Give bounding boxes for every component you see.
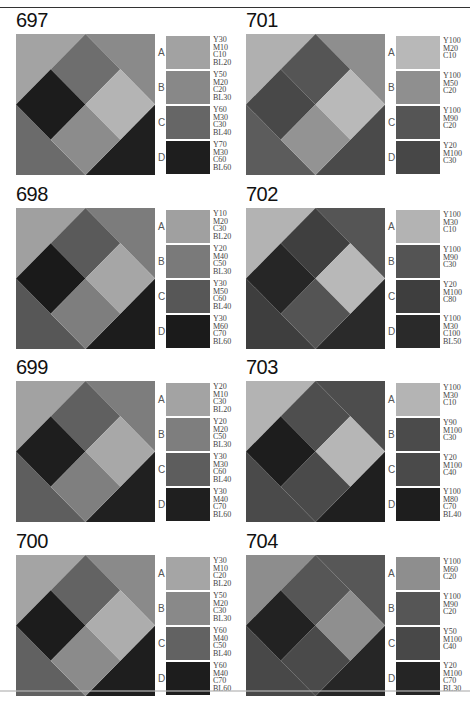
color-swatch <box>396 557 440 590</box>
cmyk-spec: Y20 M20 C50 BL30 <box>213 418 231 448</box>
swatch-letter-b: B <box>388 256 395 267</box>
diamond-pattern-square <box>246 381 385 522</box>
color-panel-699: 699 AY20 M10 C30 BL20BY20 M20 C50 BL30CY… <box>16 357 251 531</box>
swatch-letter-d: D <box>158 152 165 163</box>
cmyk-spec: Y50 M20 C30 BL30 <box>213 592 231 622</box>
swatch-letter-c: C <box>158 291 165 302</box>
cmyk-spec: Y20 M40 C50 BL30 <box>213 245 231 275</box>
cmyk-spec: Y100 M50 C20 <box>443 72 461 95</box>
color-swatch <box>396 383 440 416</box>
cmyk-spec: Y20 M100 C40 <box>443 454 462 477</box>
color-swatch <box>166 488 210 521</box>
cmyk-spec: Y100 M80 C70 BL40 <box>443 488 461 518</box>
swatch-letter-b: B <box>158 603 165 614</box>
cmyk-spec: Y30 M10 C20 BL20 <box>213 557 231 587</box>
diamond-pattern-square <box>246 208 385 349</box>
color-swatch <box>166 453 210 486</box>
color-swatch <box>396 592 440 625</box>
cmyk-spec: Y30 M30 C60 BL40 <box>213 453 231 483</box>
color-swatch <box>396 106 440 139</box>
color-panel-702: 702 AY100 M30 C10BY100 M90 C30CY20 M100 … <box>246 184 470 358</box>
color-swatch <box>166 557 210 590</box>
color-swatch <box>396 36 440 69</box>
swatch-letter-d: D <box>158 673 165 684</box>
color-swatch <box>396 488 440 521</box>
swatch-letter-d: D <box>388 499 395 510</box>
color-panel-701: 701 AY100 M20 C10BY100 M50 C20CY100 M90 … <box>246 10 470 184</box>
cmyk-spec: Y60 M40 C70 BL60 <box>213 662 231 692</box>
color-swatch <box>396 210 440 243</box>
panel-number: 699 <box>16 357 48 377</box>
swatch-letter-b: B <box>158 82 165 93</box>
swatch-letter-d: D <box>388 326 395 337</box>
cmyk-spec: Y50 M20 C20 BL30 <box>213 71 231 101</box>
cmyk-spec: Y20 M10 C30 BL20 <box>213 383 231 413</box>
color-swatch <box>166 280 210 313</box>
swatch-letter-b: B <box>158 429 165 440</box>
top-rule <box>0 7 470 8</box>
cmyk-spec: Y50 M100 C40 <box>443 628 462 651</box>
color-swatch <box>166 106 210 139</box>
cmyk-spec: Y100 M90 C20 <box>443 107 461 130</box>
swatch-letter-a: A <box>158 47 165 58</box>
swatch-letter-a: A <box>388 47 395 58</box>
diamond-pattern-square <box>246 34 385 175</box>
cmyk-spec: Y30 M60 C70 BL60 <box>213 315 231 345</box>
swatch-letter-b: B <box>388 603 395 614</box>
cmyk-spec: Y20 M100 C30 <box>443 142 462 165</box>
diamond-pattern-square <box>16 34 155 175</box>
panel-number: 697 <box>16 10 48 30</box>
cmyk-spec: Y100 M90 C30 <box>443 246 461 269</box>
swatch-letter-d: D <box>388 673 395 684</box>
panel-number: 704 <box>246 531 278 551</box>
cmyk-spec: Y10 M20 C30 BL20 <box>213 210 231 240</box>
swatch-letter-c: C <box>388 291 395 302</box>
color-swatch <box>396 71 440 104</box>
swatch-letter-d: D <box>158 326 165 337</box>
cmyk-spec: Y100 M90 C20 <box>443 593 461 616</box>
swatch-letter-c: C <box>158 117 165 128</box>
swatch-letter-a: A <box>158 221 165 232</box>
swatch-letter-a: A <box>388 221 395 232</box>
cmyk-spec: Y100 M30 C10 <box>443 384 461 407</box>
color-swatch <box>166 315 210 348</box>
color-swatch <box>396 315 440 348</box>
cmyk-spec: Y90 M100 C30 <box>443 419 462 442</box>
swatch-letter-c: C <box>158 638 165 649</box>
panel-number: 700 <box>16 531 48 551</box>
swatch-letter-d: D <box>388 152 395 163</box>
color-swatch <box>166 627 210 660</box>
swatch-letter-a: A <box>158 394 165 405</box>
color-panel-703: 703 AY100 M30 C10BY90 M100 C30CY20 M100 … <box>246 357 470 531</box>
swatch-letter-b: B <box>158 256 165 267</box>
cmyk-spec: Y70 M30 C60 BL60 <box>213 141 231 171</box>
swatch-letter-c: C <box>158 464 165 475</box>
color-swatch <box>396 141 440 174</box>
swatch-letter-c: C <box>388 464 395 475</box>
swatch-letter-d: D <box>158 499 165 510</box>
color-swatch <box>396 418 440 451</box>
color-swatch <box>166 592 210 625</box>
color-swatch <box>396 453 440 486</box>
diamond-pattern-square <box>246 555 385 696</box>
diamond-pattern-square <box>16 208 155 349</box>
swatch-letter-b: B <box>388 82 395 93</box>
swatch-letter-c: C <box>388 117 395 128</box>
color-panel-697: 697 AY30 M10 C10 BL20BY50 M20 C20 BL30CY… <box>16 10 251 184</box>
color-swatch <box>166 245 210 278</box>
cmyk-spec: Y100 M30 C10 <box>443 211 461 234</box>
cmyk-spec: Y60 M40 C50 BL40 <box>213 627 231 657</box>
swatch-letter-a: A <box>388 394 395 405</box>
cmyk-spec: Y30 M40 C70 BL60 <box>213 488 231 518</box>
cmyk-spec: Y60 M30 C30 BL40 <box>213 106 231 136</box>
color-swatch <box>396 280 440 313</box>
color-swatch <box>166 141 210 174</box>
diamond-pattern-square <box>16 555 155 696</box>
panel-number: 702 <box>246 184 278 204</box>
color-panel-704: 704 AY100 M60 C20BY100 M90 C20CY50 M100 … <box>246 531 470 704</box>
color-swatch <box>166 71 210 104</box>
color-swatch <box>166 383 210 416</box>
cmyk-spec: Y30 M50 C60 BL40 <box>213 280 231 310</box>
color-swatch <box>396 627 440 660</box>
color-panel-700: 700 AY30 M10 C20 BL20BY50 M20 C30 BL30CY… <box>16 531 251 704</box>
